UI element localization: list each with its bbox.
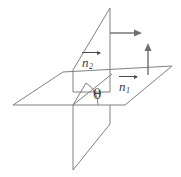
vertical-plane-lower (73, 105, 110, 170)
n1-base: n (119, 79, 126, 94)
n2-subscript: 2 (89, 62, 94, 71)
figure-canvas (0, 0, 181, 177)
n2-label: n2 (82, 56, 93, 71)
geometry-figure: n2 n1 θ (0, 0, 181, 177)
theta-label: θ (93, 87, 101, 101)
horizontal-direction-arrow (110, 30, 142, 37)
n2-vector-arrow (82, 52, 100, 53)
n1-label: n1 (119, 80, 130, 95)
vertical-direction-arrow (145, 43, 152, 75)
n1-vector-arrow (119, 76, 137, 77)
n2-base: n (82, 55, 89, 70)
n1-subscript: 1 (126, 86, 131, 95)
